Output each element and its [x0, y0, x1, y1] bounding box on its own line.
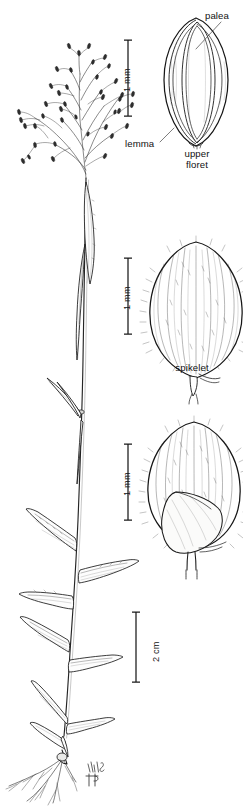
scale-bar-habit [132, 612, 140, 682]
figure-habit [6, 43, 139, 805]
figure-lower-spikelet [139, 416, 243, 579]
scale-label-habit: 2 cm [151, 641, 162, 662]
label-palea: palea [205, 10, 229, 21]
scale-label-spikelet: 1 mm [122, 286, 133, 310]
scale-label-lower-spikelet: 1 mm [122, 472, 133, 496]
label-upper-floret-line2: floret [170, 159, 224, 170]
label-lemma: lemma [125, 138, 154, 149]
leader-lemma [160, 128, 174, 142]
figure-spikelet [140, 236, 243, 404]
root-system [6, 760, 77, 805]
artist-signature [86, 762, 104, 786]
panicle [17, 43, 135, 178]
mid-culm-node [47, 378, 84, 484]
figure-upper-floret [160, 18, 228, 149]
lower-leaves [19, 509, 139, 757]
panicle-spikelets [17, 43, 135, 164]
scale-label-upper-floret: 1 mm [122, 68, 133, 92]
botanical-plate: .s{fill:none;stroke:#1d1d1d;stroke-linec… [0, 0, 243, 811]
label-spikelet: spikelet [160, 362, 224, 373]
label-upper-floret-line1: upper [170, 148, 224, 159]
illustration-canvas: .s{fill:none;stroke:#1d1d1d;stroke-linec… [0, 0, 243, 811]
